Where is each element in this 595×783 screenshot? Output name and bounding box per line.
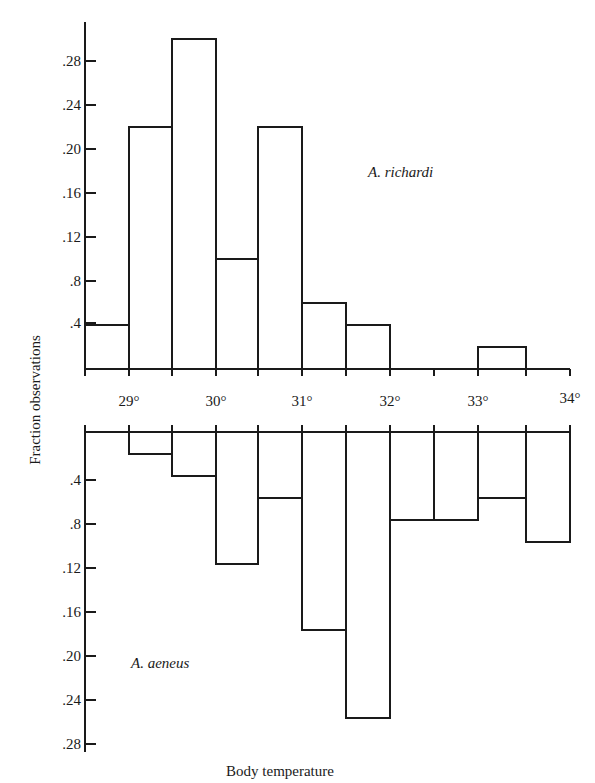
x-tick-label: 30° (206, 393, 227, 409)
histogram-bar (302, 303, 346, 369)
y-tick-label: .20 (62, 141, 81, 157)
richardi-bars (85, 39, 526, 369)
y-tick-label: .12 (62, 229, 81, 245)
histogram-bar (346, 325, 390, 369)
x-tick-label: 33° (468, 393, 489, 409)
y-tick-label: .12 (62, 560, 81, 576)
top-y-axis: .4.8.12.16.20.24.28 (62, 22, 570, 376)
histogram-bar (172, 39, 216, 369)
histogram-bar (346, 432, 390, 718)
y-tick-label: .8 (70, 273, 81, 289)
y-tick-label: .20 (62, 648, 81, 664)
histogram-bar (258, 432, 302, 498)
species-label-richardi: A. richardi (367, 164, 433, 180)
x-axis-tick-labels: 29°30°31°32°33°34° (119, 390, 581, 409)
histogram-bar (85, 325, 129, 369)
histogram-bar (302, 432, 346, 630)
y-tick-label: .16 (62, 604, 81, 620)
histogram-bar (216, 432, 258, 564)
y-tick-label: .16 (62, 185, 81, 201)
histogram-bar (216, 259, 258, 369)
species-label-aeneus: A. aeneus (130, 655, 189, 671)
histogram-bar (390, 432, 434, 520)
x-tick-label: 31° (292, 393, 313, 409)
histogram-bar (478, 432, 526, 498)
histogram-bar (478, 347, 526, 369)
y-tick-label: .8 (70, 516, 81, 532)
histogram-bar (258, 127, 302, 369)
y-tick-label: .4 (70, 472, 82, 488)
histogram-bar (129, 432, 172, 454)
aeneus-bars (129, 432, 570, 718)
y-axis-title: Fraction observations (27, 335, 43, 465)
x-tick-label: 32° (380, 393, 401, 409)
histogram-bar (526, 432, 570, 542)
y-tick-label: .28 (62, 53, 81, 69)
histogram-bar (434, 432, 478, 520)
x-tick-label: 34° (560, 390, 581, 406)
histogram-bar (129, 127, 172, 369)
bottom-y-axis: .4.8.12.16.20.24.28 (62, 425, 570, 752)
histogram-bar (172, 432, 216, 476)
y-tick-label: .28 (62, 736, 81, 752)
y-tick-label: .4 (70, 315, 82, 331)
x-tick-label: 29° (119, 393, 140, 409)
histogram-chart: .4.8.12.16.20.24.28 .4.8.12.16.20.24.28 … (0, 0, 595, 783)
y-tick-label: .24 (62, 692, 81, 708)
y-tick-label: .24 (62, 97, 81, 113)
x-axis-title: Body temperature (226, 763, 334, 779)
